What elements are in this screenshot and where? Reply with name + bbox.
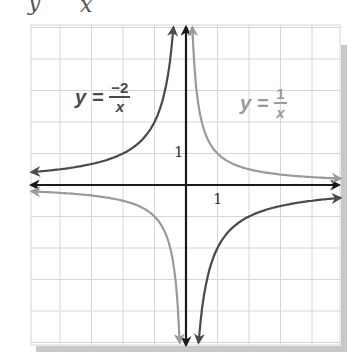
frame-shadow-bottom (36, 346, 347, 352)
numerator: 1 (274, 86, 286, 104)
frame-shadow-right (341, 45, 347, 352)
curve-neg-2-over-x-quadrant-4 (199, 198, 341, 343)
y-tick-label-1: 1 (174, 143, 184, 161)
label-y-equals-1-over-x: y = 1 x (240, 86, 287, 120)
label-lhs: y = (240, 92, 268, 115)
label-lhs: y = (75, 86, 103, 109)
label-y-equals-neg-2-over-x: y = −2 x (75, 80, 130, 114)
graph (0, 0, 360, 354)
curve-1-over-x-quadrant-3 (32, 191, 180, 342)
x-tick-label-1: 1 (213, 190, 223, 208)
denominator: x (276, 104, 284, 120)
fraction: 1 x (274, 86, 286, 120)
denominator: x (116, 98, 124, 114)
fraction: −2 x (109, 80, 130, 114)
numerator: −2 (109, 80, 130, 98)
